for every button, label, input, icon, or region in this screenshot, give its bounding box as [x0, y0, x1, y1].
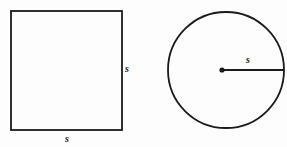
square-shape — [11, 11, 122, 130]
square-bottom-side-label: s — [64, 133, 69, 144]
geometry-figure-svg: s s s — [0, 0, 287, 147]
geometry-figure-canvas: s s s — [0, 0, 287, 147]
circle-radius-label: s — [245, 54, 250, 65]
square-right-side-label: s — [124, 63, 129, 74]
circle-center-dot — [219, 67, 224, 72]
